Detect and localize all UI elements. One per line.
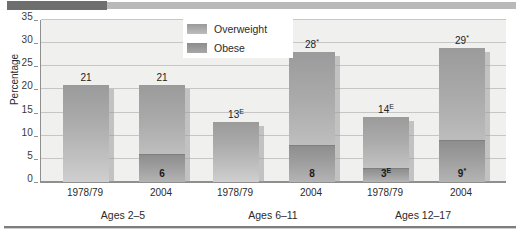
y-tick-mark-15 <box>34 113 38 114</box>
bar-obese-label: 9* <box>439 168 485 179</box>
bar-total-label: 13E <box>213 109 259 120</box>
y-tick-mark-20 <box>34 89 38 90</box>
x-tick-label: 2004 <box>126 187 196 198</box>
legend-label: Obese <box>214 42 245 54</box>
x-axis: 1978/792004Ages 2–51978/792004Ages 6–111… <box>40 185 506 225</box>
x-group-label: Ages 12–17 <box>343 209 503 221</box>
y-tick-label-15: 15 <box>21 105 33 115</box>
y-tick-mark-35 <box>34 20 38 21</box>
y-axis-title: Percentage <box>9 37 20 123</box>
bar-total-label: 28* <box>289 39 335 50</box>
y-tick-mark-25 <box>34 66 38 67</box>
legend-item-overweight[interactable]: Overweight <box>187 21 267 37</box>
x-group-label: Ages 6–11 <box>193 209 353 221</box>
legend-label: Overweight <box>214 23 267 35</box>
legend-swatch-icon <box>187 24 207 34</box>
x-tick-label: 1978/79 <box>200 187 270 198</box>
header-rule-light <box>107 2 516 9</box>
chart-legend: OverweightObese <box>183 18 293 58</box>
bar-0-0[interactable] <box>63 85 109 182</box>
gridline-25 <box>41 65 506 66</box>
bar-obese-label: 3E <box>363 168 409 179</box>
x-tick-label: 2004 <box>426 187 496 198</box>
footer-rule-soft <box>4 228 516 229</box>
bar-1-0[interactable] <box>213 122 259 182</box>
bar-total-label: 21 <box>63 72 109 83</box>
y-tick-mark-5 <box>34 159 38 160</box>
y-tick-label-30: 30 <box>21 35 33 45</box>
bar-obese-label: 6 <box>139 168 185 179</box>
x-tick-label: 2004 <box>276 187 346 198</box>
header-rule-dark <box>7 1 107 10</box>
bar-2-1[interactable] <box>439 48 485 182</box>
bar-shadow <box>109 89 114 182</box>
y-tick-mark-10 <box>34 136 38 137</box>
bar-total-label: 29* <box>439 35 485 46</box>
y-tick-label-5: 5 <box>27 151 33 161</box>
y-tick-label-20: 20 <box>21 81 33 91</box>
bar-shadow <box>335 56 340 182</box>
y-tick-label-10: 10 <box>21 128 33 138</box>
y-tick-mark-30 <box>34 43 38 44</box>
bar-total-label: 21 <box>139 72 185 83</box>
x-tick-label: 1978/79 <box>350 187 420 198</box>
legend-item-obese[interactable]: Obese <box>187 40 245 56</box>
bar-obese-label: 8 <box>289 168 335 179</box>
bar-chart: 05101520253035 Percentage 2121613E28*814… <box>0 12 520 224</box>
bar-shadow <box>409 121 414 182</box>
x-group-label: Ages 2–5 <box>43 209 203 221</box>
y-tick-label-25: 25 <box>21 58 33 68</box>
y-tick-label-35: 35 <box>21 12 33 22</box>
y-tick-label-0: 0 <box>27 174 33 184</box>
x-tick-label: 1978/79 <box>50 187 120 198</box>
bar-total-label: 14E <box>363 104 409 115</box>
y-tick-mark-0 <box>34 182 38 183</box>
bar-shadow <box>485 52 490 182</box>
bar-shadow <box>185 89 190 182</box>
bar-1-1[interactable] <box>289 52 335 182</box>
legend-swatch-icon <box>187 43 207 53</box>
bar-shadow <box>259 126 264 182</box>
